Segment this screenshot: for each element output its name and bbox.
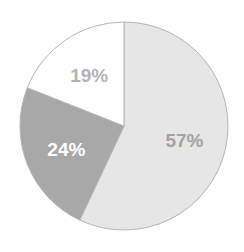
- pie-chart: 57%24%19%: [0, 0, 244, 252]
- pie-slice-label: 57%: [165, 130, 203, 151]
- pie-slice-label: 24%: [47, 139, 85, 160]
- pie-slice-label: 19%: [70, 65, 108, 86]
